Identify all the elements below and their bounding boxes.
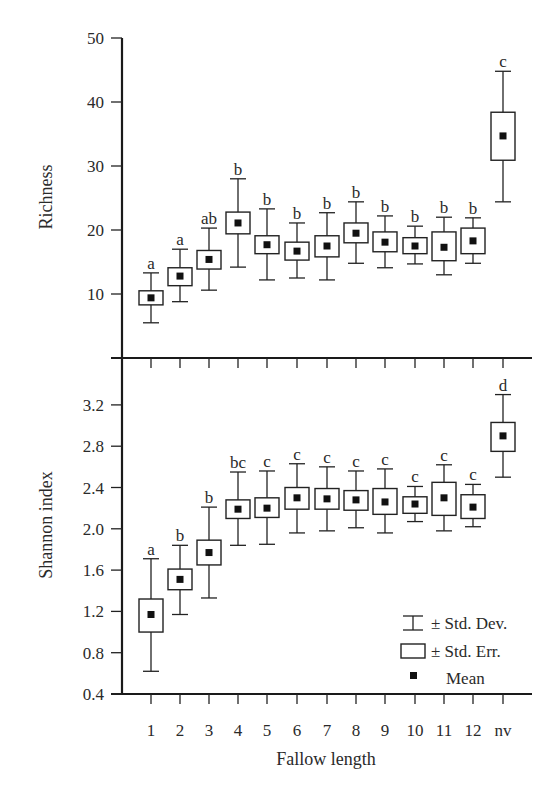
significance-letter: a [176, 230, 184, 249]
mean-marker [382, 498, 389, 505]
box-11: b [432, 198, 456, 275]
mean-marker [264, 241, 271, 248]
legend-mean-icon [410, 672, 417, 679]
x-tick-label: 5 [263, 721, 272, 740]
box-10: c [403, 467, 427, 521]
significance-letter: c [352, 452, 360, 471]
box-6: c [285, 445, 309, 533]
x-tick-label: 4 [234, 721, 243, 740]
shannon-axis-title: Shannon index [36, 471, 56, 579]
x-tick-label: 8 [352, 721, 361, 740]
x-tick-label: 11 [436, 721, 452, 740]
legend-sd-label: ± Std. Dev. [431, 614, 507, 633]
legend-sd-icon [403, 616, 423, 630]
box-4: b [226, 160, 250, 267]
y-tick-label: 20 [87, 221, 104, 240]
significance-letter: bc [230, 453, 247, 472]
mean-marker [235, 219, 242, 226]
x-tick-label: 12 [465, 721, 482, 740]
chart-canvas: 1020304050aaabbbbbbbbbbc 0.40.81.21.62.0… [0, 0, 558, 800]
box-7: c [315, 448, 339, 531]
box-12: c [461, 465, 485, 526]
box-3: b [197, 488, 221, 598]
mean-marker [353, 496, 360, 503]
fallow-length-axis-title: Fallow length [276, 749, 376, 769]
y-tick-label: 2.0 [83, 520, 104, 539]
significance-letter: b [234, 160, 243, 179]
mean-marker [294, 494, 301, 501]
significance-letter: c [263, 452, 271, 471]
box-1: a [139, 540, 163, 672]
mean-marker [206, 549, 213, 556]
y-tick-label: 2.8 [83, 437, 104, 456]
mean-marker [412, 243, 419, 250]
mean-marker [148, 294, 155, 301]
x-tick-label: 10 [407, 721, 424, 740]
significance-letter: b [440, 198, 449, 217]
box-3: ab [197, 209, 221, 290]
box-12: b [461, 199, 485, 263]
mean-marker [353, 230, 360, 237]
significance-letter: a [147, 254, 155, 273]
mean-marker [382, 239, 389, 246]
x-tick-labels: 123456789101112nv [147, 721, 512, 740]
significance-letter: c [499, 52, 507, 71]
mean-marker [441, 494, 448, 501]
significance-letter: b [381, 197, 390, 216]
significance-letter: b [352, 183, 361, 202]
box-11: c [432, 446, 456, 531]
significance-letter: a [147, 540, 155, 559]
y-tick-label: 0.4 [83, 685, 105, 704]
significance-letter: c [469, 465, 477, 484]
mean-marker [441, 244, 448, 251]
significance-letter: b [323, 194, 332, 213]
richness-panel: 1020304050aaabbbbbbbbbbc [87, 29, 515, 368]
legend: ± Std. Dev. ± Std. Err. Mean [401, 614, 507, 688]
y-tick-label: 2.4 [83, 479, 105, 498]
x-tick-label: 7 [323, 721, 332, 740]
mean-marker [324, 243, 331, 250]
mean-marker [264, 505, 271, 512]
y-tick-label: 0.8 [83, 644, 104, 663]
significance-letter: b [263, 190, 272, 209]
significance-letter: ab [201, 209, 217, 228]
significance-letter: d [499, 376, 508, 395]
box-7: b [315, 194, 339, 280]
mean-marker [470, 504, 477, 511]
y-tick-label: 10 [87, 285, 104, 304]
mean-marker [500, 432, 507, 439]
box-2: a [168, 230, 192, 301]
mean-marker [294, 248, 301, 255]
mean-marker [324, 495, 331, 502]
significance-letter: c [293, 445, 301, 464]
significance-letter: c [440, 446, 448, 465]
significance-letter: c [411, 467, 419, 486]
x-tick-label: 9 [381, 721, 390, 740]
box-1: a [139, 254, 163, 323]
legend-se-icon [401, 644, 425, 658]
box-8: b [344, 183, 368, 263]
legend-se-label: ± Std. Err. [431, 642, 501, 661]
legend-mean-label: Mean [446, 669, 485, 688]
mean-marker [148, 611, 155, 618]
y-tick-label: 1.2 [83, 602, 104, 621]
y-tick-label: 1.6 [83, 561, 104, 580]
mean-marker [500, 132, 507, 139]
x-tick-label: 1 [147, 721, 156, 740]
significance-letter: b [411, 207, 420, 226]
significance-letter: b [469, 199, 478, 218]
y-tick-label: 30 [87, 157, 104, 176]
box-5: b [255, 190, 279, 280]
mean-marker [235, 506, 242, 513]
box-10: b [403, 207, 427, 264]
significance-letter: b [205, 488, 214, 507]
y-tick-label: 3.2 [83, 396, 104, 415]
box-5: c [255, 452, 279, 544]
x-tick-label: 3 [205, 721, 214, 740]
significance-letter: b [293, 204, 302, 223]
mean-marker [412, 501, 419, 508]
y-tick-label: 50 [87, 29, 104, 48]
box-4: bc [226, 453, 250, 545]
mean-marker [177, 576, 184, 583]
box-nv: d [491, 376, 515, 478]
